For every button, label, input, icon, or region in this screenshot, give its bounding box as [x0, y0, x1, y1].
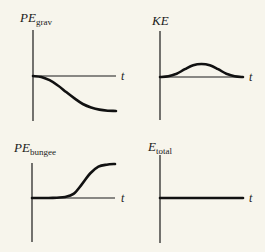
ylabel-pe-bungee: PEbungee — [13, 140, 56, 157]
curve-pe-grav — [33, 76, 116, 111]
xlabel-e-total: t — [249, 191, 253, 205]
panel-pe-bungee: PEbungee t — [13, 140, 125, 242]
ylabel-pe-grav: PEgrav — [19, 10, 52, 27]
curve-pe-bungee — [32, 164, 115, 198]
curve-ke — [160, 64, 243, 77]
panel-ke: KE t — [151, 13, 253, 120]
xlabel-pe-bungee: t — [121, 191, 125, 205]
ylabel-ke: KE — [151, 13, 169, 28]
energy-graphs-figure: PEgrav t KE t PEbungee t Etotal t — [0, 0, 265, 252]
panel-e-total: Etotal t — [147, 139, 253, 243]
panel-pe-grav: PEgrav t — [19, 10, 125, 121]
ylabel-e-total: Etotal — [147, 139, 172, 156]
xlabel-ke: t — [249, 70, 253, 84]
xlabel-pe-grav: t — [121, 69, 125, 83]
